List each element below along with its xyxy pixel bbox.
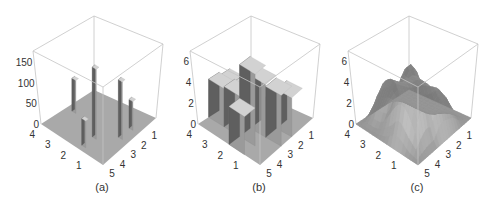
y-tick-label: 4 — [30, 129, 36, 140]
y-tick-label: 1 — [391, 160, 397, 171]
z-tick-label: 6 — [342, 56, 348, 67]
x-tick-label: 3 — [130, 149, 136, 160]
z-tick-label: 150 — [16, 57, 33, 68]
x-tick-label: 5 — [266, 168, 272, 179]
x-tick-label: 5 — [424, 168, 430, 179]
x-tick-label: 1 — [152, 130, 158, 141]
y-tick-label: 1 — [76, 160, 82, 171]
x-tick-label: 1 — [309, 130, 315, 141]
y-tick-label: 3 — [202, 139, 208, 150]
x-tick-label: 4 — [120, 159, 126, 170]
x-tick-label: 4 — [435, 159, 441, 170]
z-tick-label: 4 — [344, 77, 350, 88]
caption-a: (a) — [95, 181, 108, 193]
y-tick-label: 2 — [61, 150, 67, 161]
z-tick-label: 2 — [346, 98, 352, 109]
x-tick-label: 2 — [298, 140, 304, 151]
y-tick-label: 4 — [345, 129, 351, 140]
x-tick-label: 4 — [277, 159, 283, 170]
x-tick-label: 3 — [287, 149, 293, 160]
figure: 0501001501234123450246123412345024612341… — [0, 0, 496, 205]
z-tick-label: 50 — [26, 98, 38, 109]
plots-canvas: 0501001501234123450246123412345024612341… — [0, 0, 496, 205]
caption-c: (c) — [411, 181, 424, 193]
caption-b: (b) — [252, 181, 265, 193]
z-tick-label: 6 — [184, 56, 190, 67]
z-tick-label: 4 — [186, 77, 192, 88]
z-tick-label: 100 — [18, 78, 35, 89]
y-tick-label: 4 — [187, 129, 193, 140]
y-tick-label: 2 — [376, 150, 382, 161]
y-tick-label: 3 — [360, 139, 366, 150]
y-tick-label: 1 — [233, 160, 239, 171]
x-tick-label: 1 — [467, 130, 473, 141]
z-tick-label: 2 — [188, 98, 194, 109]
surface — [356, 65, 471, 165]
x-tick-label: 5 — [109, 168, 115, 179]
x-tick-label: 2 — [141, 140, 147, 151]
x-tick-label: 3 — [445, 149, 451, 160]
y-tick-label: 3 — [45, 139, 51, 150]
x-tick-label: 2 — [456, 140, 462, 151]
y-tick-label: 2 — [218, 150, 224, 161]
